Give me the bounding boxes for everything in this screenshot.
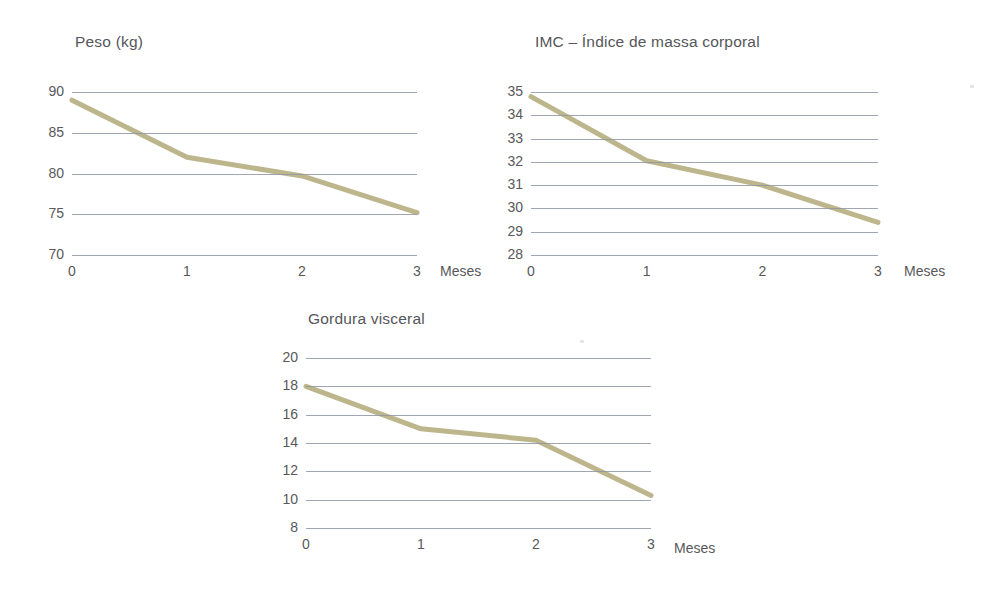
gridline — [531, 139, 878, 140]
gridline — [306, 415, 651, 416]
xaxis-label-peso: Meses — [440, 263, 481, 279]
chart-imc: IMC – Índice de massa corporal Meses 353… — [500, 0, 988, 295]
y-axis-tick-label: 28 — [483, 246, 523, 262]
gridline — [306, 528, 651, 529]
y-axis-tick-label: 31 — [483, 176, 523, 192]
x-axis-tick-label: 2 — [282, 263, 322, 279]
gridline — [72, 92, 417, 93]
data-series-line — [306, 386, 651, 495]
gridline — [531, 232, 878, 233]
y-axis-tick-label: 85 — [24, 124, 64, 140]
x-axis-tick-label: 3 — [397, 263, 437, 279]
scan-artifact-speck-2 — [580, 340, 584, 343]
gridline — [306, 500, 651, 501]
x-axis-tick-label: 2 — [516, 536, 556, 552]
y-axis-tick-label: 90 — [24, 83, 64, 99]
chart-peso: Peso (kg) Meses 90858075700123 — [0, 0, 500, 295]
gridline — [306, 443, 651, 444]
y-axis-tick-label: 29 — [483, 223, 523, 239]
chart-gordura-visceral: Gordura visceral Meses 20181614121080123 — [270, 300, 770, 592]
gridline — [72, 214, 417, 215]
gridline — [72, 174, 417, 175]
xaxis-label-gordura: Meses — [674, 540, 715, 556]
scan-artifact-speck — [970, 85, 974, 88]
y-axis-tick-label: 80 — [24, 165, 64, 181]
x-axis-tick-label: 2 — [742, 263, 782, 279]
gridline — [72, 255, 417, 256]
y-axis-tick-label: 8 — [258, 519, 298, 535]
gridline — [531, 92, 878, 93]
y-axis-tick-label: 18 — [258, 377, 298, 393]
y-axis-tick-label: 75 — [24, 205, 64, 221]
x-axis-tick-label: 1 — [627, 263, 667, 279]
gridline — [531, 162, 878, 163]
gridline — [306, 358, 651, 359]
x-axis-tick-label: 0 — [286, 536, 326, 552]
y-axis-tick-label: 35 — [483, 83, 523, 99]
x-axis-tick-label: 3 — [631, 536, 671, 552]
gridline — [531, 115, 878, 116]
y-axis-tick-label: 30 — [483, 199, 523, 215]
y-axis-tick-label: 14 — [258, 434, 298, 450]
y-axis-tick-label: 20 — [258, 349, 298, 365]
gridline — [306, 386, 651, 387]
gridline — [306, 471, 651, 472]
y-axis-tick-label: 16 — [258, 406, 298, 422]
x-axis-tick-label: 0 — [52, 263, 92, 279]
y-axis-tick-label: 34 — [483, 106, 523, 122]
series-line-peso — [0, 0, 500, 295]
y-axis-tick-label: 33 — [483, 130, 523, 146]
gridline — [531, 185, 878, 186]
y-axis-tick-label: 32 — [483, 153, 523, 169]
xaxis-label-imc: Meses — [904, 263, 945, 279]
series-line-imc — [500, 0, 988, 295]
gridline — [531, 208, 878, 209]
y-axis-tick-label: 10 — [258, 491, 298, 507]
y-axis-tick-label: 12 — [258, 462, 298, 478]
x-axis-tick-label: 0 — [511, 263, 551, 279]
gridline — [72, 133, 417, 134]
x-axis-tick-label: 3 — [858, 263, 898, 279]
y-axis-tick-label: 70 — [24, 246, 64, 262]
data-series-line — [72, 100, 417, 212]
x-axis-tick-label: 1 — [167, 263, 207, 279]
x-axis-tick-label: 1 — [401, 536, 441, 552]
gridline — [531, 255, 878, 256]
